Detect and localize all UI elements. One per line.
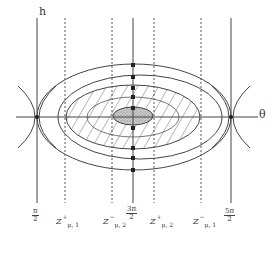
label-z-plus-mu1: Z+μ, 1 — [56, 214, 79, 228]
label-z-plus-mu2: Z+μ, 2 — [150, 214, 173, 228]
h-axis-label: h — [39, 6, 46, 17]
tick-label-pi-half: π 2 — [32, 208, 39, 223]
phase-portrait-diagram: h θ π 2 3π 2 5π 2 Z+μ, 1 Z−μ, 2 Z+μ, 2 Z… — [0, 0, 278, 254]
phase-portrait-svg — [0, 0, 278, 254]
label-z-minus-mu1: Z−μ, 1 — [193, 214, 216, 228]
tick-label-five-pi-half: 5π 2 — [224, 208, 235, 223]
theta-axis-label: θ — [259, 109, 266, 120]
label-z-minus-mu2: Z−μ, 2 — [103, 214, 126, 228]
tick-label-three-pi-half: 3π 2 — [126, 206, 137, 221]
